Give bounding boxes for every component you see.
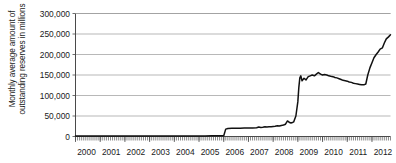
x-tick-label: 2010 [324, 147, 343, 157]
y-tick-label: 300,000 [40, 9, 71, 19]
x-tick-label: 2006 [225, 147, 244, 157]
y-tick-label: 200,000 [40, 50, 71, 60]
x-tick-label: 2005 [201, 147, 220, 157]
x-tick-label: 2012 [374, 147, 393, 157]
y-tick-label: 100,000 [40, 91, 71, 101]
x-tick-label: 2000 [77, 147, 96, 157]
gridlines [76, 14, 391, 117]
x-tick-label: 2007 [250, 147, 269, 157]
y-tick-label: 0 [65, 132, 70, 142]
x-tick-label: 2008 [275, 147, 294, 157]
x-tick-labels: 2000200120022003200420052006200720082009… [77, 147, 392, 157]
x-tick-label: 2001 [102, 147, 121, 157]
data-line [76, 35, 391, 136]
y-tick-label: 250,000 [40, 29, 71, 39]
y-tick-label: 50,000 [44, 111, 70, 121]
x-tick-label: 2009 [300, 147, 319, 157]
line-chart-plot: 050,000100,000150,000200,000250,000300,0… [0, 0, 396, 163]
x-tick-label: 2004 [176, 147, 195, 157]
x-tick-label: 2002 [127, 147, 146, 157]
chart-container: Monthly average amount of outstanding re… [0, 0, 396, 163]
data-series-group [76, 35, 391, 136]
x-axis-minor-ticks [76, 137, 391, 141]
x-tick-label: 2003 [151, 147, 170, 157]
y-tick-label: 150,000 [40, 70, 71, 80]
y-tick-labels: 050,000100,000150,000200,000250,000300,0… [40, 9, 71, 142]
x-tick-label: 2011 [349, 147, 367, 157]
